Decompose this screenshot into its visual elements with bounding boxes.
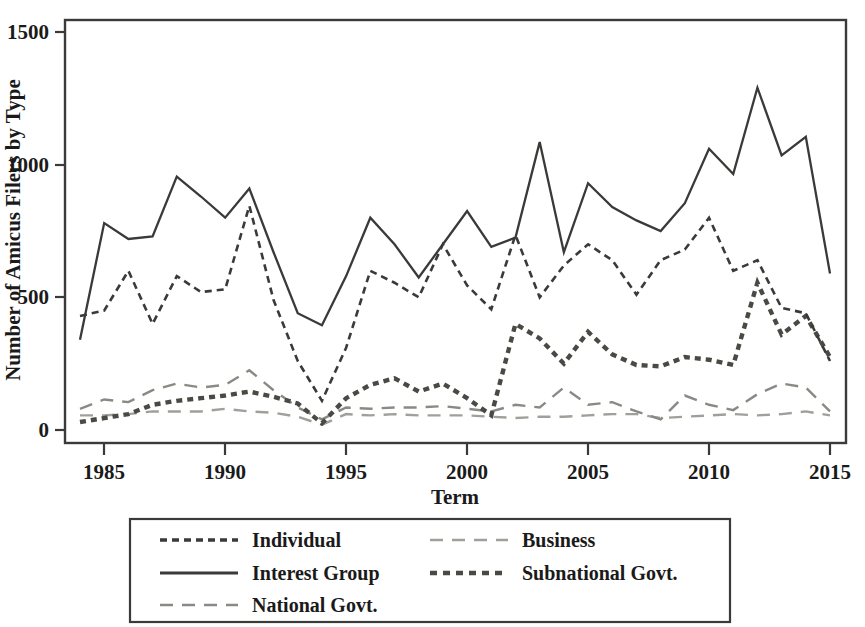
- x-tick-label-1985: 1985: [83, 460, 125, 484]
- y-tick-label-0: 0: [39, 418, 50, 442]
- svg-text:Number of Amicus Filers by Typ: Number of Amicus Filers by Type: [1, 79, 25, 381]
- series-line-individual: [80, 206, 830, 401]
- x-axis-title: Term: [431, 485, 480, 509]
- x-tick-label-2005: 2005: [567, 460, 609, 484]
- series-line-subnational-govt: [80, 283, 830, 424]
- legend-label-business: Business: [522, 529, 596, 551]
- x-axis-tick-labels: 1985 1990 1995 2000 2005 2010 2015: [83, 460, 851, 484]
- x-tick-label-1995: 1995: [325, 460, 367, 484]
- legend-label-national-govt: National Govt.: [252, 594, 378, 616]
- y-axis-title: Number of Amicus Filers by Type: [1, 79, 25, 381]
- series-line-business: [80, 409, 830, 425]
- chart-canvas: Number of Amicus Filers by Type 0 500 10…: [0, 0, 865, 627]
- y-tick-label-1500: 1500: [7, 20, 49, 44]
- y-axis-ticks: [55, 32, 65, 430]
- x-axis-ticks: [104, 443, 830, 455]
- x-tick-label-2000: 2000: [446, 460, 488, 484]
- series-line-interest-group: [80, 88, 830, 340]
- amicus-filers-chart-figure: Number of Amicus Filers by Type 0 500 10…: [0, 0, 865, 627]
- legend-layer: IndividualBusinessInterest GroupSubnatio…: [160, 529, 678, 616]
- legend-label-subnational-govt: Subnational Govt.: [522, 562, 678, 584]
- x-tick-label-2015: 2015: [809, 460, 851, 484]
- legend-label-individual: Individual: [252, 529, 341, 551]
- series-layer: [80, 88, 830, 425]
- x-tick-label-2010: 2010: [688, 460, 730, 484]
- legend-label-interest-group: Interest Group: [252, 562, 380, 585]
- y-tick-label-1000: 1000: [7, 153, 49, 177]
- x-tick-label-1990: 1990: [204, 460, 246, 484]
- plot-frame: [65, 20, 846, 443]
- y-tick-label-500: 500: [18, 285, 50, 309]
